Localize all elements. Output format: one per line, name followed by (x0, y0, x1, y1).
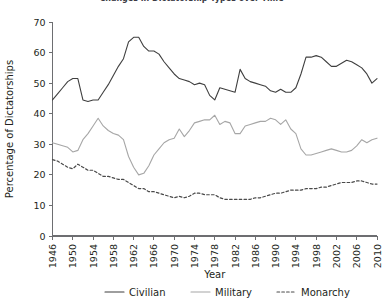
series-group (53, 37, 378, 199)
x-tick-label: 1998 (311, 244, 322, 268)
legend-label-military[interactable]: Military (215, 287, 252, 298)
legend-label-civilian[interactable]: Civilian (129, 287, 165, 298)
legend-label-monarchy[interactable]: Monarchy (301, 287, 350, 298)
x-axis: 1946195019541958196219661970197419781982… (47, 236, 383, 268)
series-line-military (53, 115, 378, 175)
y-tick-label: 20 (33, 169, 45, 180)
line-chart: 010203040506070Percentage of Dictatorshi… (0, 0, 383, 306)
y-tick-label: 50 (33, 78, 45, 89)
y-tick-label: 10 (33, 200, 45, 211)
x-tick-label: 1946 (47, 244, 58, 268)
x-tick-label: 1994 (290, 244, 301, 268)
x-tick-label: 2006 (351, 244, 362, 268)
x-axis-title: Year (203, 269, 226, 280)
y-tick-label: 30 (33, 139, 45, 150)
series-line-civilian (53, 37, 378, 101)
chart-container: Changes in Dictatorship Types over Time … (0, 0, 383, 306)
y-tick-label: 60 (33, 47, 45, 58)
y-tick-label: 0 (39, 231, 45, 242)
x-tick-label: 1990 (270, 244, 281, 268)
x-tick-label: 1962 (128, 244, 139, 268)
x-tick-label: 1966 (148, 244, 159, 268)
y-tick-label: 70 (33, 17, 45, 28)
series-line-monarchy (53, 160, 378, 200)
x-tick-label: 2010 (372, 244, 383, 268)
x-tick-label: 1950 (67, 244, 78, 268)
x-tick-label: 1954 (88, 244, 99, 268)
x-tick-label: 1982 (230, 244, 241, 268)
y-axis: 010203040506070 (33, 17, 52, 242)
x-tick-label: 1978 (209, 244, 220, 268)
y-tick-label: 40 (33, 108, 45, 119)
x-tick-label: 1974 (189, 244, 200, 268)
x-tick-label: 1986 (250, 244, 261, 268)
chart-title: Changes in Dictatorship Types over Time (0, 0, 383, 4)
x-tick-label: 1958 (108, 244, 119, 268)
x-tick-label: 1970 (169, 244, 180, 268)
y-axis-title: Percentage of Dictatorships (4, 60, 15, 198)
legend: CivilianMilitaryMonarchy (105, 287, 350, 298)
x-tick-label: 2002 (331, 244, 342, 268)
